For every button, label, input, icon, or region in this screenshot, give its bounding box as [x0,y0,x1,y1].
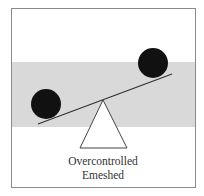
right-ball [138,48,168,78]
caption-line-2: Emeshed [11,169,195,182]
left-ball [31,89,61,119]
seesaw-diagram: Overcontrolled Emeshed [0,0,204,196]
caption-line-1: Overcontrolled [11,155,195,168]
